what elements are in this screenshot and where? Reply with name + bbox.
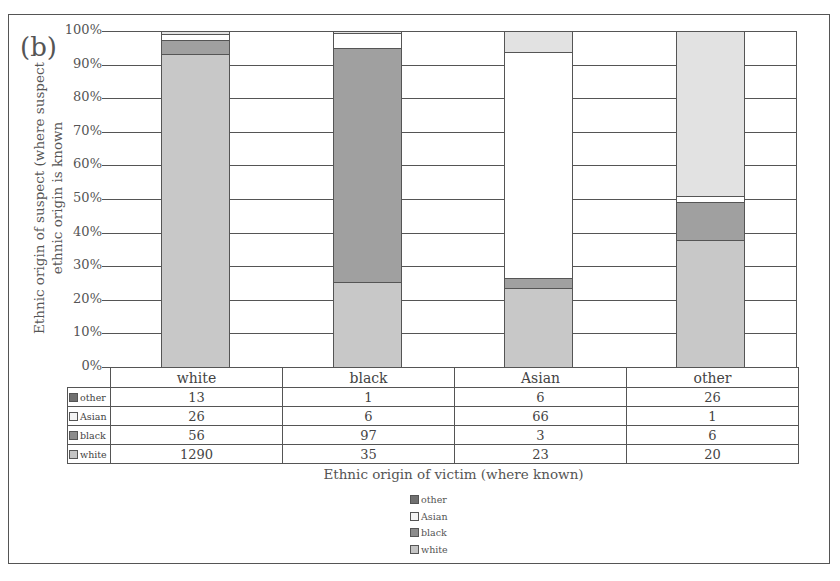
table-cell: 26: [111, 407, 283, 426]
y-tick-label: 10%: [60, 324, 102, 339]
bar-segment-black: [334, 48, 401, 282]
table-cell: 26: [627, 388, 799, 407]
legend: other Asian black white: [409, 492, 448, 558]
bar-segment-white: [677, 240, 744, 367]
y-tick-label: 100%: [60, 22, 102, 37]
table-cell: 1290: [111, 445, 283, 464]
bar-white: [161, 31, 230, 367]
y-tick-label: 30%: [60, 257, 102, 272]
legend-item-black: black: [409, 525, 448, 542]
legend-item-white: white: [409, 542, 448, 559]
table-cell: 66: [455, 407, 627, 426]
y-tick-label: 90%: [60, 56, 102, 71]
table-row: white 1290 35 23 20: [68, 445, 799, 464]
y-tick-label: 50%: [60, 190, 102, 205]
y-tick-label: 20%: [60, 291, 102, 306]
table-cell: 23: [455, 445, 627, 464]
row-label: Asian: [68, 407, 111, 426]
legend-swatch-icon: [410, 512, 419, 521]
legend-item-other: other: [409, 492, 448, 509]
bar-segment-white: [505, 288, 572, 367]
table-cell: 1: [283, 388, 455, 407]
legend-swatch-icon: [69, 412, 78, 421]
legend-swatch-icon: [69, 450, 78, 459]
table-cell: 6: [283, 407, 455, 426]
bar-black: [333, 31, 402, 367]
bar-segment-other: [677, 31, 744, 196]
y-tick-label: 40%: [60, 224, 102, 239]
column-header: other: [627, 368, 799, 388]
bar-segment-asian: [505, 52, 572, 278]
table-header-row: white black Asian other: [68, 368, 799, 388]
legend-item-asian: Asian: [409, 509, 448, 526]
table-cell: 1: [627, 407, 799, 426]
column-header: white: [111, 368, 283, 388]
legend-swatch-icon: [410, 528, 419, 537]
row-label: white: [68, 445, 111, 464]
row-label: black: [68, 426, 111, 445]
bar-other: [676, 31, 745, 367]
bar-segment-white: [334, 282, 401, 367]
bar-segment-black: [677, 202, 744, 240]
y-tick-label: 80%: [60, 89, 102, 104]
legend-swatch-icon: [69, 393, 78, 402]
legend-swatch-icon: [410, 545, 419, 554]
table-cell: 6: [627, 426, 799, 445]
data-table: white black Asian other other 13 1 6 26 …: [67, 367, 799, 464]
row-label: other: [68, 388, 111, 407]
table-cell: 13: [111, 388, 283, 407]
table-cell: 56: [111, 426, 283, 445]
table-row: black 56 97 3 6: [68, 426, 799, 445]
bar-segment-white: [162, 54, 229, 367]
bar-asian: [504, 31, 573, 367]
legend-swatch-icon: [410, 495, 419, 504]
table-cell: 3: [455, 426, 627, 445]
x-axis-label: Ethnic origin of victim (where known): [110, 466, 797, 482]
bar-segment-asian: [334, 33, 401, 48]
column-header: Asian: [455, 368, 627, 388]
table-row: other 13 1 6 26: [68, 388, 799, 407]
column-header: black: [283, 368, 455, 388]
y-tick-label: 60%: [60, 156, 102, 171]
bar-segment-other: [505, 31, 572, 52]
table-corner: [68, 368, 111, 388]
bar-segment-black: [162, 40, 229, 54]
table-cell: 6: [455, 388, 627, 407]
table-cell: 20: [627, 445, 799, 464]
table-cell: 97: [283, 426, 455, 445]
legend-swatch-icon: [69, 431, 78, 440]
table-cell: 35: [283, 445, 455, 464]
bar-segment-black: [505, 278, 572, 288]
y-tick-label: 70%: [60, 123, 102, 138]
plot-area: [110, 31, 797, 367]
table-row: Asian 26 6 66 1: [68, 407, 799, 426]
